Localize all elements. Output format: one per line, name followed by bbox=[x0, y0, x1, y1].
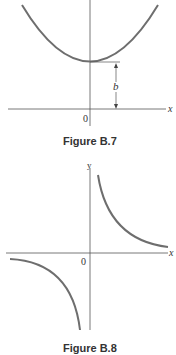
origin-label: 0 bbox=[81, 256, 86, 267]
figure-b7: b x 0 Figure B.7 bbox=[8, 0, 173, 147]
hyperbola-branch-upper bbox=[98, 175, 168, 247]
origin-label: 0 bbox=[83, 113, 88, 124]
y-axis-label: y bbox=[87, 160, 92, 170]
figures-canvas: b x 0 Figure B.7 y x 0 Figure B.8 bbox=[0, 0, 176, 355]
x-axis-label: x bbox=[168, 247, 174, 258]
dimension-label-b: b bbox=[113, 80, 119, 92]
arrow-down-icon bbox=[114, 104, 118, 109]
figure-caption: Figure B.7 bbox=[63, 135, 117, 147]
arrow-up-icon bbox=[114, 63, 118, 68]
hyperbola-branch-lower bbox=[10, 259, 80, 330]
figure-caption: Figure B.8 bbox=[63, 342, 117, 354]
figure-b8: y x 0 Figure B.8 bbox=[6, 160, 174, 354]
x-axis-label: x bbox=[167, 103, 173, 114]
